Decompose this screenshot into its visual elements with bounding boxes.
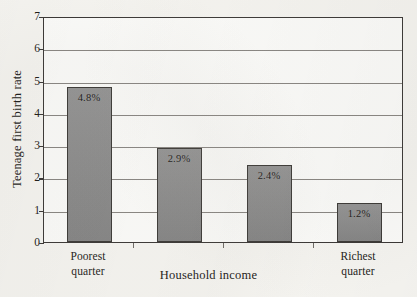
x-axis-category-label-line: Richest <box>313 249 403 264</box>
x-axis-category-label-line: Poorest <box>43 249 133 264</box>
bar-value-label: 2.9% <box>158 153 201 164</box>
gridline <box>44 50 402 51</box>
bar-value-label: 2.4% <box>248 170 291 181</box>
y-axis-tick-labels: 01234567 <box>24 0 40 297</box>
x-axis-tick-mark <box>313 243 314 248</box>
bar: 4.8% <box>67 87 112 242</box>
bar: 2.9% <box>157 148 202 242</box>
x-axis-tick-mark <box>133 243 134 248</box>
x-axis-title: Household income <box>0 268 417 283</box>
x-axis-tick-mark <box>223 243 224 248</box>
bar: 1.2% <box>337 203 382 242</box>
gridline <box>44 83 402 84</box>
bar-value-label: 4.8% <box>68 92 111 103</box>
bar: 2.4% <box>247 165 292 242</box>
plot-area: 4.8%2.9%2.4%1.2% <box>43 17 403 243</box>
y-axis-title-text: Teenage first birth rate <box>10 70 25 188</box>
chart-figure: Teenage first birth rate 01234567 4.8%2.… <box>0 0 417 297</box>
bar-value-label: 1.2% <box>338 208 381 219</box>
